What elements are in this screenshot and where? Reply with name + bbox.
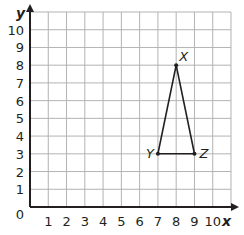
coordinate-plane: xy 12345678910123456789100 XYZ [0,0,244,235]
y-axis-arrow-icon [26,4,34,12]
y-tick-label: 9 [16,40,24,55]
x-tick-label: 9 [190,214,198,229]
x-axis-label: x [221,213,232,229]
vertex-point-y [156,152,160,156]
y-tick-label: 3 [16,147,24,162]
y-tick-label: 10 [7,23,24,38]
y-tick-label: 6 [16,94,24,109]
y-tick-label: 8 [16,58,24,73]
x-tick-label: 3 [81,214,89,229]
y-tick-label: 7 [16,76,24,91]
x-tick-label: 7 [154,214,162,229]
axes: xy [16,4,239,229]
y-tick-label: 1 [16,182,24,197]
x-tick-label: 2 [62,214,70,229]
vertex-point-z [192,152,196,156]
x-axis-arrow-icon [231,203,239,211]
vertex-point-x [174,63,178,67]
y-axis-label: y [16,5,26,21]
grid-lines [30,12,231,207]
x-tick-label: 4 [99,214,107,229]
origin-label: 0 [16,207,24,222]
vertex-label-y: Y [146,146,155,161]
x-tick-label: 1 [44,214,52,229]
x-tick-label: 8 [172,214,180,229]
x-tick-label: 6 [135,214,143,229]
vertex-label-x: X [178,49,189,64]
y-tick-label: 2 [16,165,24,180]
x-tick-label: 10 [204,214,221,229]
y-tick-label: 4 [16,129,24,144]
vertex-label-z: Z [198,146,209,161]
x-tick-label: 5 [117,214,125,229]
vertex-points: XYZ [146,49,209,161]
y-tick-label: 5 [16,111,24,126]
